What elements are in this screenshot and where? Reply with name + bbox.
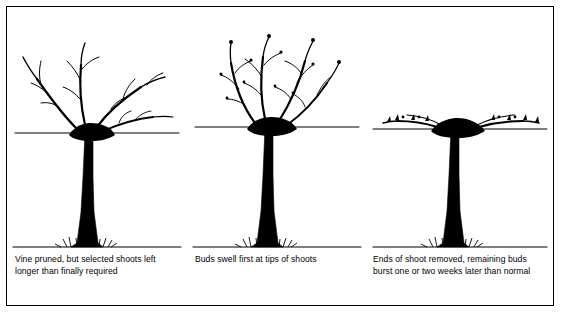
panel-stage-2: Buds swell first at tips of shoots <box>187 7 367 305</box>
panel-1-caption: Vine pruned, but selected shoots left lo… <box>15 253 181 277</box>
vine-head-3 <box>431 118 485 138</box>
canes-2 <box>221 37 339 125</box>
trunk-3 <box>437 129 469 247</box>
panel-3-caption: Ends of shoot removed, remaining buds bu… <box>373 253 547 277</box>
vine-head-2 <box>247 117 297 136</box>
vine-drawing-2 <box>187 7 367 255</box>
vine-illustration-stage-1 <box>7 7 187 255</box>
canes-1 <box>23 43 173 131</box>
panel-stage-3: Ends of shoot removed, remaining buds bu… <box>367 7 553 305</box>
vine-head-1 <box>69 123 115 141</box>
trunk-2 <box>251 127 283 247</box>
vine-illustration-stage-3 <box>367 7 553 255</box>
vine-drawing-1 <box>7 7 187 255</box>
figure-frame: Vine pruned, but selected shoots left lo… <box>6 6 554 306</box>
vine-drawing-3 <box>367 7 553 255</box>
panel-stage-1: Vine pruned, but selected shoots left lo… <box>7 7 187 305</box>
panel-2-caption: Buds swell first at tips of shoots <box>195 253 361 265</box>
figure-page: Vine pruned, but selected shoots left lo… <box>0 0 562 314</box>
vine-illustration-stage-2 <box>187 7 367 255</box>
trunk-1 <box>71 132 103 247</box>
